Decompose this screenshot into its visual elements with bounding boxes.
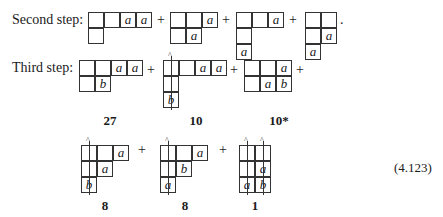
plus-sign: + xyxy=(138,142,146,158)
diagram-cell: a xyxy=(321,28,337,44)
diagram-cell xyxy=(104,12,120,28)
column-arrow xyxy=(89,141,90,195)
diagram-cell xyxy=(97,145,113,161)
diagram-cell xyxy=(179,60,195,76)
diagram-cell xyxy=(170,28,186,44)
diagram-cell: a xyxy=(268,12,284,28)
diagram-cell: a xyxy=(113,145,129,161)
multiplicity-label: 27 xyxy=(95,113,125,129)
diagram-cell xyxy=(79,60,95,76)
diagram-cell: b xyxy=(276,76,292,92)
diagram-cell: a xyxy=(195,60,211,76)
diagram-cell xyxy=(88,28,104,44)
column-arrow xyxy=(263,141,264,195)
column-arrow xyxy=(171,56,172,110)
diagram-cell xyxy=(260,60,276,76)
row-label-second-step: Second step: xyxy=(12,12,83,28)
multiplicity-label: 10* xyxy=(264,113,294,129)
arrowhead-icon: ^ xyxy=(86,137,90,145)
diagram-cell: a xyxy=(136,12,152,28)
diagram-cell xyxy=(305,12,321,28)
plus-sign: + xyxy=(147,62,155,78)
plus-sign: + xyxy=(222,12,230,28)
arrowhead-icon: ^ xyxy=(244,137,248,145)
diagram-cell: a xyxy=(202,12,218,28)
arrowhead-icon: ^ xyxy=(168,52,172,60)
diagram-cell: a xyxy=(186,28,202,44)
diagram-cell xyxy=(244,60,260,76)
arrowhead-icon: ^ xyxy=(260,137,264,145)
equation-number: (4.123) xyxy=(394,160,432,176)
diagram-cell xyxy=(176,145,192,161)
row-label-third-step: Third step: xyxy=(12,60,73,76)
diagram-cell xyxy=(236,28,252,44)
multiplicity-label: 8 xyxy=(90,198,120,214)
plus-sign: + xyxy=(289,12,297,28)
multiplicity-label: 10 xyxy=(181,113,211,129)
diagram-cell: b xyxy=(176,161,192,177)
diagram-cell xyxy=(88,12,104,28)
diagram-cell: a xyxy=(127,60,143,76)
diagram-cell: a xyxy=(97,161,113,177)
diagram-cell xyxy=(170,12,186,28)
diagram-cell: a xyxy=(192,145,208,161)
diagram-cell: a xyxy=(305,44,321,60)
column-arrow xyxy=(247,141,248,195)
diagram-cell: a xyxy=(236,44,252,60)
period: . xyxy=(340,12,344,28)
plus-sign: + xyxy=(219,142,227,158)
plus-sign: + xyxy=(296,62,304,78)
diagram-cell xyxy=(236,12,252,28)
plus-sign: + xyxy=(230,62,238,78)
diagram-cell: a xyxy=(120,12,136,28)
multiplicity-label: 8 xyxy=(170,198,200,214)
diagram-cell: a xyxy=(211,60,227,76)
diagram-cell: a xyxy=(260,76,276,92)
plus-sign: + xyxy=(157,12,165,28)
diagram-cell xyxy=(95,60,111,76)
diagram-cell: b xyxy=(95,76,111,92)
diagram-cell: a xyxy=(276,60,292,76)
diagram-cell xyxy=(186,12,202,28)
arrowhead-icon: ^ xyxy=(165,137,169,145)
multiplicity-label: 1 xyxy=(240,198,270,214)
column-arrow xyxy=(168,141,169,195)
diagram-cell xyxy=(252,12,268,28)
diagram-cell xyxy=(244,76,260,92)
diagram-cell xyxy=(321,12,337,28)
diagram-cell xyxy=(79,76,95,92)
diagram-cell: a xyxy=(111,60,127,76)
diagram-cell xyxy=(305,28,321,44)
